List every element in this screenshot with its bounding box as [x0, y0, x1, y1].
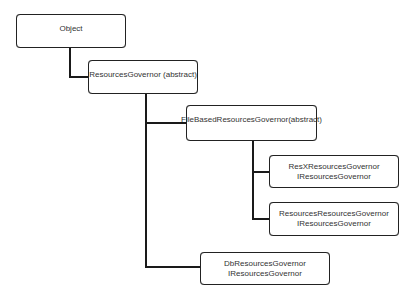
node-object-label: Object: [59, 24, 82, 34]
connector-to-resources-resources: [252, 218, 270, 220]
node-resources-governor-label: ResourcesGovernor (abstract): [89, 70, 197, 80]
node-file-based-resources-governor: FileBasedResourcesGovernor(abstract): [186, 105, 317, 141]
node-file-based-resources-governor-label: FileBasedResourcesGovernor(abstract): [181, 115, 322, 125]
node-resources-resources-governor-label: ResourcesResourcesGovernor: [279, 209, 389, 219]
node-resources-resources-governor-interface: IResourcesGovernor: [297, 219, 371, 229]
node-resx-resources-governor-interface: IResourcesGovernor: [297, 172, 371, 182]
node-resources-resources-governor: ResourcesResourcesGovernor IResourcesGov…: [269, 202, 399, 236]
node-resources-governor: ResourcesGovernor (abstract): [88, 60, 198, 94]
connector-object-to-resources-governor: [69, 47, 71, 77]
node-db-resources-governor-interface: IResourcesGovernor: [228, 269, 302, 279]
connector-file-based-trunk: [252, 140, 254, 219]
node-db-resources-governor: DbResourcesGovernor IResourcesGovernor: [200, 252, 330, 285]
connector-to-resx: [252, 171, 270, 173]
node-resx-resources-governor: ResXResourcesGovernor IResourcesGovernor: [269, 155, 399, 188]
node-db-resources-governor-label: DbResourcesGovernor: [224, 259, 306, 269]
node-object: Object: [16, 14, 126, 48]
node-resx-resources-governor-label: ResXResourcesGovernor: [288, 162, 379, 172]
connector-to-db: [145, 266, 201, 268]
connector-object-to-resources-governor-h: [69, 76, 89, 78]
connector-resources-governor-trunk: [145, 93, 147, 267]
